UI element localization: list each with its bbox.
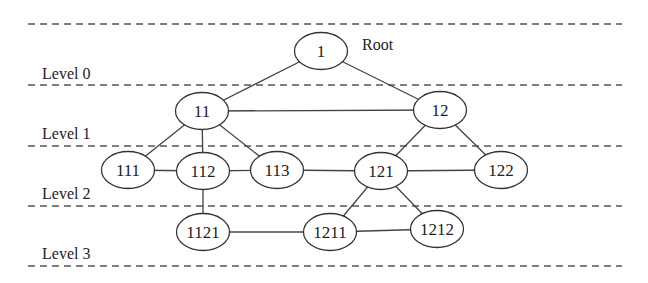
node-111: 111: [102, 152, 155, 189]
node-1121: 1121: [177, 214, 230, 251]
node-121: 121: [355, 153, 408, 190]
level-label: Level 0: [42, 65, 90, 82]
node-122: 122: [475, 152, 528, 189]
node-label: 12: [432, 101, 449, 120]
level-label: Level 1: [42, 125, 90, 142]
root-label: Root: [362, 36, 394, 53]
node-1212: 1212: [411, 211, 464, 248]
nodes: 11112111112113121122112112111212: [102, 33, 528, 251]
node-label: 113: [265, 161, 290, 180]
node-label: 122: [488, 161, 514, 180]
tree-diagram: Level 0Level 1Level 2Level 3 11112111112…: [0, 0, 648, 283]
edges: [128, 51, 501, 232]
node-label: 1121: [186, 223, 219, 242]
level-labels: Level 0Level 1Level 2Level 3: [42, 65, 90, 262]
level-label: Level 3: [42, 245, 90, 262]
node-label: 1: [317, 42, 326, 61]
node-12: 12: [414, 92, 467, 129]
node-label: 1211: [313, 223, 346, 242]
edge-11-12: [202, 110, 440, 111]
node-113: 113: [251, 152, 304, 189]
node-1211: 1211: [304, 214, 357, 251]
node-label: 121: [368, 162, 394, 181]
node-label: 112: [191, 162, 216, 181]
node-label: 1212: [420, 220, 454, 239]
node-112: 112: [177, 153, 230, 190]
node-1: 1: [295, 33, 348, 70]
node-label: 111: [116, 161, 140, 180]
node-11: 11: [176, 93, 229, 130]
node-label: 11: [194, 102, 210, 121]
level-label: Level 2: [42, 185, 90, 202]
